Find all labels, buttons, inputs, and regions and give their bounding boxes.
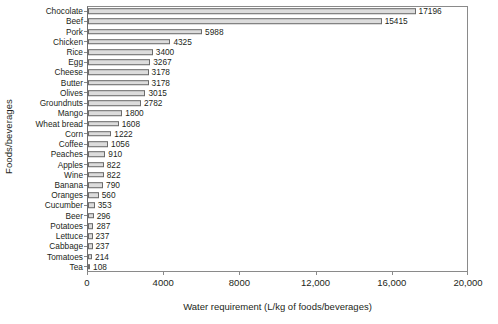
- bar-value-label: 2782: [144, 99, 162, 107]
- bar-value-label: 5988: [205, 27, 223, 35]
- bar-value-label: 3015: [148, 89, 166, 97]
- bar-row: Lettuce237: [0, 231, 498, 241]
- bar-row: Wine822: [0, 170, 498, 180]
- y-axis-tick-mark: [84, 52, 87, 53]
- bar-value-label: 1608: [122, 119, 140, 127]
- bar: [88, 59, 150, 65]
- bar-row: Olives3015: [0, 88, 498, 98]
- x-axis-tick-mark: [239, 271, 240, 275]
- bar-value-label: 353: [98, 201, 112, 209]
- bar-row: Beef15415: [0, 16, 498, 26]
- x-axis-tick-mark: [392, 271, 393, 275]
- y-axis-tick-mark: [84, 266, 87, 267]
- bar-value-label: 3178: [152, 79, 170, 87]
- x-axis-tick-label: 8000: [229, 277, 250, 288]
- bar-row: Chicken4325: [0, 37, 498, 47]
- y-axis-tick-label: Tomatoes: [47, 252, 83, 260]
- bar: [88, 152, 105, 158]
- bar-value-label: 1056: [111, 140, 129, 148]
- bar: [88, 49, 153, 55]
- bar-value-label: 287: [96, 222, 110, 230]
- bar-value-label: 910: [108, 150, 122, 158]
- x-axis-tick-mark: [163, 271, 164, 275]
- y-axis-tick-mark: [84, 164, 87, 165]
- y-axis-tick-label: Apples: [58, 160, 83, 168]
- y-axis-tick-label: Chicken: [53, 38, 83, 46]
- bar: [88, 182, 103, 188]
- bar: [88, 233, 93, 239]
- x-axis-tick-label: 0: [84, 277, 89, 288]
- bar: [88, 100, 141, 106]
- y-axis-tick-label: Banana: [54, 181, 83, 189]
- bar-row: Tomatoes214: [0, 252, 498, 262]
- bar-row: Pork5988: [0, 26, 498, 36]
- bar: [88, 192, 99, 198]
- bar-row: Cabbage237: [0, 241, 498, 251]
- y-axis-tick-label: Oranges: [51, 191, 83, 199]
- y-axis-tick-label: Tea: [70, 263, 83, 271]
- bar-value-label: 15415: [385, 17, 408, 25]
- y-axis-tick-mark: [84, 236, 87, 237]
- y-axis-tick-label: Peaches: [51, 150, 83, 158]
- bar-value-label: 790: [106, 181, 120, 189]
- bar: [88, 121, 119, 127]
- y-axis-tick-mark: [84, 133, 87, 134]
- x-axis-tick-mark: [316, 271, 317, 275]
- y-axis-tick-label: Cheese: [54, 68, 83, 76]
- bar-row: Rice3400: [0, 47, 498, 57]
- y-axis-tick-mark: [84, 154, 87, 155]
- y-axis-tick-label: Wheat bread: [35, 119, 83, 127]
- bar-row: Egg3267: [0, 57, 498, 67]
- bar-value-label: 560: [102, 191, 116, 199]
- y-axis-tick-mark: [84, 21, 87, 22]
- bar: [88, 29, 202, 35]
- bar-row: Wheat bread1608: [0, 119, 498, 129]
- x-axis-tick-mark: [467, 271, 468, 275]
- bar: [88, 203, 95, 209]
- bar: [88, 162, 104, 168]
- y-axis-tick-mark: [84, 174, 87, 175]
- y-axis-tick-mark: [84, 62, 87, 63]
- bar-row: Oranges560: [0, 190, 498, 200]
- bars-container: Chocolate17196Beef15415Pork5988Chicken43…: [0, 6, 498, 272]
- y-axis-tick-mark: [84, 41, 87, 42]
- bar-value-label: 822: [107, 171, 121, 179]
- bar: [88, 90, 145, 96]
- bar: [88, 19, 382, 25]
- bar-value-label: 17196: [419, 7, 442, 15]
- y-axis-tick-mark: [84, 144, 87, 145]
- bar: [88, 80, 149, 86]
- y-axis-tick-label: Olives: [60, 89, 83, 97]
- bar: [88, 264, 90, 270]
- bar: [88, 213, 94, 219]
- y-axis-tick-label: Coffee: [59, 140, 83, 148]
- y-axis-tick-label: Mango: [58, 109, 83, 117]
- y-axis-tick-label: Egg: [68, 58, 83, 66]
- y-axis-tick-label: Beef: [66, 17, 83, 25]
- bar-value-label: 1800: [125, 109, 143, 117]
- y-axis-tick-mark: [84, 225, 87, 226]
- y-axis-tick-label: Butter: [61, 79, 83, 87]
- x-axis-tick-label: 12,000: [301, 277, 330, 288]
- y-axis-tick-label: Chocolate: [46, 7, 83, 15]
- bar-row: Coffee1056: [0, 139, 498, 149]
- bar-value-label: 822: [107, 160, 121, 168]
- bar: [88, 244, 93, 250]
- bar-value-label: 4325: [173, 38, 191, 46]
- bar: [88, 223, 93, 229]
- y-axis-tick-label: Cucumber: [45, 201, 83, 209]
- y-axis-tick-mark: [84, 11, 87, 12]
- y-axis-tick-label: Corn: [65, 130, 83, 138]
- x-axis-title: Water requirement (L/kg of foods/beverag…: [87, 301, 468, 312]
- bar-value-label: 1222: [114, 130, 132, 138]
- bar-value-label: 296: [97, 212, 111, 220]
- x-axis-tick-label: 20,000: [453, 277, 482, 288]
- bar-value-label: 3267: [153, 58, 171, 66]
- y-axis-tick-mark: [84, 256, 87, 257]
- y-axis-tick-label: Rice: [66, 48, 83, 56]
- y-axis-tick-mark: [84, 195, 87, 196]
- bar: [88, 131, 111, 137]
- bar: [88, 254, 92, 260]
- bar-row: Cucumber353: [0, 200, 498, 210]
- y-axis-tick-label: Groundnuts: [40, 99, 83, 107]
